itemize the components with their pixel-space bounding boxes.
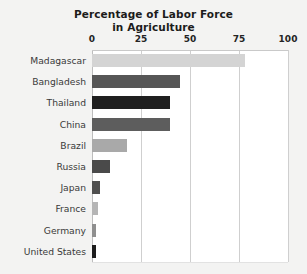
bar-thailand[interactable]	[92, 96, 170, 109]
bar-chart: Percentage of Labor Force in Agriculture…	[0, 0, 307, 274]
bar-row: Germany	[0, 220, 307, 241]
bar-bangladesh[interactable]	[92, 75, 180, 88]
category-label-france: France	[0, 198, 86, 219]
bar-row: France	[0, 198, 307, 219]
category-label-united-states: United States	[0, 241, 86, 262]
chart-title: Percentage of Labor Force in Agriculture	[0, 8, 307, 33]
bar-japan[interactable]	[92, 181, 100, 194]
bar-row: Japan	[0, 177, 307, 198]
bar-row: Bangladesh	[0, 71, 307, 92]
x-tick-label-100: 100	[279, 34, 298, 44]
bar-row: China	[0, 114, 307, 135]
category-label-thailand: Thailand	[0, 92, 86, 113]
category-label-bangladesh: Bangladesh	[0, 71, 86, 92]
category-label-madagascar: Madagascar	[0, 50, 86, 71]
x-tick-label-0: 0	[89, 34, 95, 44]
plot-bottom-border	[92, 262, 288, 263]
bar-row: Madagascar	[0, 50, 307, 71]
bar-row: Russia	[0, 156, 307, 177]
bar-china[interactable]	[92, 118, 170, 131]
bar-row: United States	[0, 241, 307, 262]
category-label-brazil: Brazil	[0, 135, 86, 156]
chart-title-line-1: Percentage of Labor Force	[0, 8, 307, 21]
bar-france[interactable]	[92, 202, 98, 215]
bar-brazil[interactable]	[92, 139, 127, 152]
bar-row: Thailand	[0, 92, 307, 113]
category-label-china: China	[0, 114, 86, 135]
chart-title-line-2: in Agriculture	[0, 21, 307, 34]
x-tick-label-25: 25	[135, 34, 148, 44]
category-label-germany: Germany	[0, 220, 86, 241]
bar-germany[interactable]	[92, 224, 96, 237]
bar-madagascar[interactable]	[92, 54, 245, 67]
x-tick-label-75: 75	[233, 34, 246, 44]
category-label-japan: Japan	[0, 177, 86, 198]
bar-united-states[interactable]	[92, 245, 96, 258]
bar-row: Brazil	[0, 135, 307, 156]
bar-russia[interactable]	[92, 160, 110, 173]
category-label-russia: Russia	[0, 156, 86, 177]
x-tick-label-50: 50	[184, 34, 197, 44]
